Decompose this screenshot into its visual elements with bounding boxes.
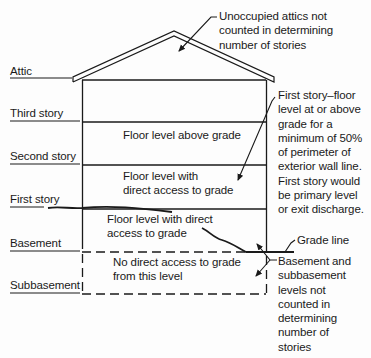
floor-text-direct-access-basement: Floor level with direct access to grade: [107, 212, 213, 241]
text-line: be primary level: [278, 188, 364, 202]
text-line: Unoccupied attics not: [219, 9, 333, 23]
text-line: determining: [278, 311, 351, 325]
text-line: Basement and: [278, 254, 351, 268]
text-line: counted in determining: [219, 23, 333, 37]
first-story-note: First story–floor level at or above grad…: [278, 88, 364, 217]
text-line: access to grade: [107, 226, 213, 240]
text-line: from this level: [113, 269, 241, 283]
text-line: level at or above: [278, 102, 364, 116]
text-line: of perimeter of: [278, 145, 364, 159]
text-line: Floor level with direct: [107, 212, 213, 226]
grade-line-label: Grade line: [297, 233, 349, 247]
floor-text-no-access: No direct access to grade from this leve…: [113, 255, 241, 284]
text-line: or exit discharge.: [278, 202, 364, 216]
text-line: subbasement: [278, 268, 351, 282]
text-line: exterior wall line.: [278, 159, 364, 173]
story-diagram: Attic Third story Second story First sto…: [0, 0, 371, 358]
text-line: direct access to grade: [123, 183, 233, 197]
text-line: First story would: [278, 174, 364, 188]
text-line: number of stories: [219, 38, 333, 52]
level-label-second-story: Second story: [10, 149, 76, 163]
text-line: stories: [278, 340, 351, 354]
level-label-first-story: First story: [10, 192, 59, 206]
text-line: minimum of 50%: [278, 131, 364, 145]
floor-text-above-grade: Floor level above grade: [123, 128, 241, 142]
level-label-basement: Basement: [10, 236, 61, 250]
text-line: levels not: [278, 283, 351, 297]
level-label-subbasement: Subbasement: [10, 278, 80, 292]
basement-note: Basement and subbasement levels not coun…: [278, 254, 351, 354]
text-line: grade for a: [278, 117, 364, 131]
text-line: First story–floor: [278, 88, 364, 102]
attic-note: Unoccupied attics not counted in determi…: [219, 9, 333, 52]
text-line: number of: [278, 325, 351, 339]
level-label-attic: Attic: [10, 64, 32, 78]
floor-text-direct-access-first: Floor level with direct access to grade: [123, 169, 233, 198]
text-line: No direct access to grade: [113, 255, 241, 269]
text-line: Floor level with: [123, 169, 233, 183]
level-label-third-story: Third story: [10, 106, 63, 120]
text-line: counted in: [278, 297, 351, 311]
